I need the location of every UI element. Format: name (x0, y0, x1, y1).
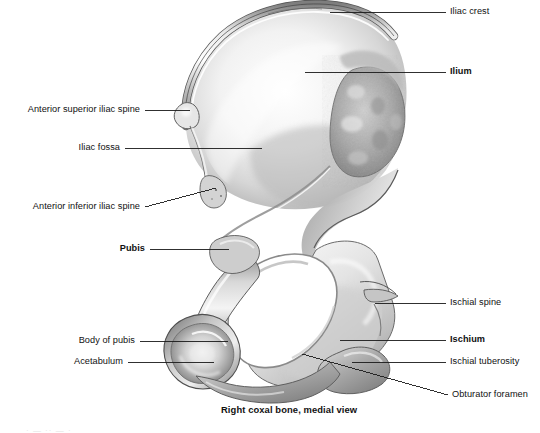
auricular-nodule-5 (348, 151, 368, 165)
auricular-nodule-4 (372, 130, 388, 150)
label-anterior-superior-iliac-spine: Anterior superior iliac spine (0, 104, 140, 115)
aiis-foramen-dot-2 (220, 195, 222, 197)
label-body-of-pubis: Body of pubis (0, 335, 135, 346)
label-acetabulum: Acetabulum (0, 356, 123, 367)
label-ischial-tuberosity: Ischial tuberosity (450, 356, 519, 367)
aiis-foramen-dot-3 (211, 198, 213, 200)
label-iliac-fossa: Iliac fossa (0, 142, 120, 153)
label-ischial-spine: Ischial spine (450, 297, 501, 308)
aiis-foramen-dot-1 (215, 189, 217, 191)
bottom-corner-mark: · — ·· — · (26, 426, 72, 433)
label-iliac-crest: Iliac crest (450, 6, 489, 17)
coxal-bone-illustration (0, 0, 540, 433)
auricular-nodule-2 (371, 97, 385, 115)
label-ischium: Ischium (450, 334, 485, 345)
label-obturator-foramen: Obturator foramen (452, 389, 528, 400)
label-ilium: Ilium (450, 66, 472, 77)
anatomy-figure: Iliac crest Ilium Ischial spine Ischium … (0, 0, 540, 433)
asis-highlight (181, 108, 191, 117)
figure-caption: Right coxal bone, medial view (221, 404, 357, 415)
auricular-nodule-1 (347, 85, 365, 99)
auricular-nodule-3 (341, 116, 363, 132)
auricular-nodule-6 (390, 114, 402, 130)
label-pubis: Pubis (0, 243, 145, 254)
label-anterior-inferior-iliac-spine: Anterior inferior iliac spine (0, 201, 140, 212)
